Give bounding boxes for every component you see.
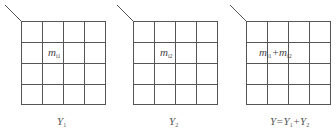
- corner-diagonal: [230, 5, 246, 21]
- corner-diagonal: [5, 5, 21, 21]
- panel-y2: mi2 Y2: [112, 0, 224, 136]
- corner-diagonal: [117, 5, 133, 21]
- caption-y-sum: Y=Y1+Y2: [270, 116, 309, 128]
- caption-y1: Y1: [57, 116, 66, 128]
- caption-y2: Y2: [169, 116, 178, 128]
- panel-y-sum: mi1+mi2 Y=Y1+Y2: [225, 0, 336, 136]
- panel-y1: mi1 Y1: [0, 0, 112, 136]
- cell-label-m-i1: mi1: [48, 47, 61, 59]
- cell-label-m-i2: mi2: [160, 47, 173, 59]
- cell-label-m-i1-plus-m-i2: mi1+mi2: [259, 47, 292, 59]
